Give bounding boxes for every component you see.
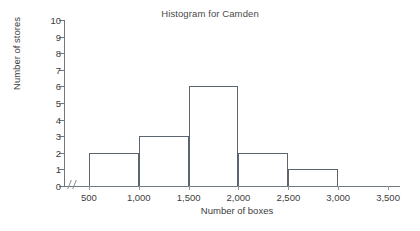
y-tick-label: 0 (56, 181, 61, 192)
histogram-bar (89, 153, 139, 186)
x-tick-label: 1,500 (177, 192, 201, 203)
x-tick-label: 1,000 (127, 192, 151, 203)
axis-break-icon (66, 180, 82, 190)
x-axis-line (64, 186, 400, 187)
x-tick-mark (189, 186, 190, 190)
histogram-bar (189, 86, 239, 186)
x-tick-mark (139, 186, 140, 190)
y-axis-line (64, 20, 65, 187)
histogram-chart: Histogram for Camden Number of stores Nu… (0, 0, 420, 231)
x-tick-mark (89, 186, 90, 190)
y-tick-label: 2 (56, 147, 61, 158)
x-tick-label: 3,500 (376, 192, 400, 203)
histogram-bar (238, 153, 288, 186)
x-tick-label: 3,000 (326, 192, 350, 203)
x-tick-mark (238, 186, 239, 190)
x-tick-mark (338, 186, 339, 190)
y-tick-label: 7 (56, 64, 61, 75)
y-tick-label: 6 (56, 81, 61, 92)
y-tick-label: 4 (56, 114, 61, 125)
y-tick-label: 10 (50, 15, 61, 26)
y-tick-label: 1 (56, 164, 61, 175)
y-axis-label: Number of stores (11, 0, 22, 114)
x-tick-label: 2,000 (227, 192, 251, 203)
y-tick-label: 9 (56, 31, 61, 42)
x-tick-label: 2,500 (276, 192, 300, 203)
histogram-bar (288, 169, 338, 186)
x-tick-mark (288, 186, 289, 190)
y-tick-label: 8 (56, 48, 61, 59)
chart-title: Histogram for Camden (0, 8, 420, 19)
x-tick-label: 500 (81, 192, 97, 203)
histogram-bar (139, 136, 189, 186)
y-tick-label: 3 (56, 131, 61, 142)
plot-area: 109876543210 5001,0001,5002,0002,5003,00… (64, 20, 400, 186)
x-tick-mark (388, 186, 389, 190)
y-tick-label: 5 (56, 98, 61, 109)
x-axis-label: Number of boxes (64, 205, 410, 216)
